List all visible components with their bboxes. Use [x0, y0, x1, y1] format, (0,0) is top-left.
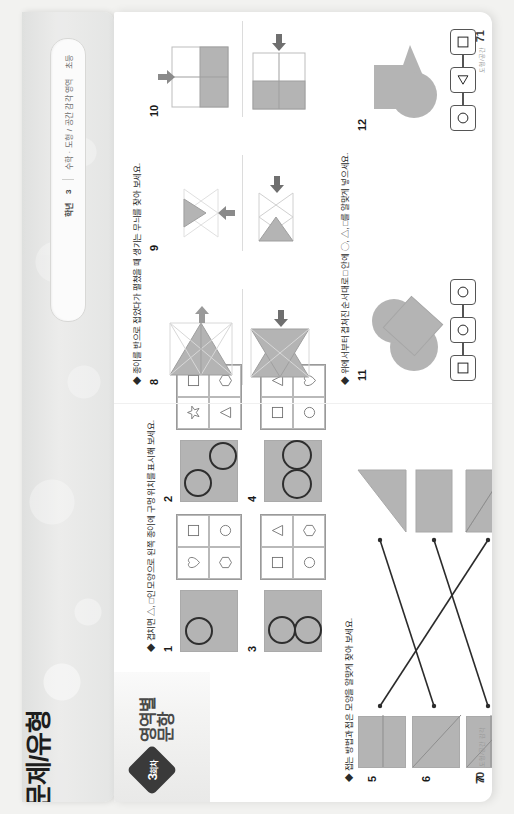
- hole-circle: [268, 616, 296, 644]
- problem-6: 6: [416, 776, 434, 782]
- problem-11-answer-boxes[interactable]: [450, 261, 476, 381]
- option-cell[interactable]: [293, 547, 325, 579]
- problem-3-number: 3: [246, 502, 258, 652]
- connector: [462, 343, 463, 355]
- problem-1-options[interactable]: [176, 514, 242, 580]
- problem-1: 1: [162, 502, 246, 652]
- problem-3: 3: [246, 502, 330, 652]
- problem-3-paper: [264, 590, 322, 652]
- hole-circle: [282, 440, 312, 470]
- fold-result-1: [358, 470, 406, 532]
- triangle-icon: [269, 523, 286, 540]
- square-icon: [185, 523, 202, 540]
- problem-11-figure: [370, 261, 448, 381]
- problem-6-paper: [412, 716, 460, 768]
- problem-6-number: 6: [420, 776, 432, 782]
- divider: [242, 155, 243, 251]
- footer-note-left: 도형/공간 감각: [477, 727, 486, 766]
- connector: [462, 93, 463, 105]
- problem-2-paper: [180, 440, 238, 502]
- option-cell[interactable]: [177, 515, 209, 547]
- book-cover: 문제/유형 학년 3 수학 · 도형 / 공간 감각 영역 초등: [22, 12, 114, 802]
- option-cell[interactable]: [261, 547, 293, 579]
- instruction-4: ◆ 위에서부터 겹쳐진 순서대로 □ 안에 ◯, △, □를 알맞게 넣으세요.: [338, 153, 350, 385]
- page-left: 3회차 영역별 문항 ◆ 겹치면 △, □인 모양으로 왼쪽 종이에 구멍 위치…: [114, 404, 492, 802]
- answer-box[interactable]: [450, 105, 476, 131]
- problem-4-paper: [264, 440, 322, 502]
- cover-label-grade-num: 3: [64, 189, 73, 194]
- cover-label-grade: 학년: [63, 203, 74, 217]
- cover-pill-divider: [62, 179, 74, 180]
- problem-12-answer-boxes[interactable]: [450, 12, 476, 131]
- rectangle-icon: [416, 470, 452, 532]
- connector: [462, 55, 463, 67]
- problem-11-number: 11: [356, 261, 368, 381]
- cover-title: 문제/유형: [22, 710, 55, 802]
- star-icon: [185, 405, 202, 422]
- problem-9-number: 9: [148, 155, 160, 251]
- instruction-3: ◆ 종이를 반으로 접었다가 펼쳤을 때 생기는 무늬를 찾아 보세요.: [130, 163, 142, 385]
- problem-3-options[interactable]: [260, 514, 326, 580]
- footer-note-right: 도형/공간: [477, 47, 486, 73]
- section-title-line1: 영역별: [140, 697, 158, 742]
- option-cell[interactable]: [261, 515, 293, 547]
- round-badge-text: 3회차: [144, 760, 159, 780]
- problem-9-figure: [162, 155, 240, 251]
- option-cell[interactable]: [209, 547, 241, 579]
- symmetry-problems: 8: [148, 21, 315, 385]
- circle-icon: [456, 323, 470, 337]
- answer-box[interactable]: [450, 355, 476, 381]
- cover-info-pill: 학년 3 수학 · 도형 / 공간 감각 영역 초등: [50, 38, 86, 322]
- problem-8: 8: [148, 289, 315, 385]
- square-icon: [456, 35, 470, 49]
- square-icon: [269, 405, 286, 422]
- circle-icon: [217, 523, 234, 540]
- screenshot-root: 문제/유형 학년 3 수학 · 도형 / 공간 감각 영역 초등 3회차 영역별…: [0, 0, 514, 814]
- cover-label-subject: 수학 · 도형 / 공간 감각 영역: [63, 78, 74, 170]
- answer-box[interactable]: [450, 29, 476, 55]
- arrow-left-icon: [271, 33, 287, 51]
- trapezoid-triangle-icon: [466, 470, 492, 532]
- hexagon-icon: [301, 523, 318, 540]
- triangle-icon: [456, 73, 470, 87]
- workbook: 문제/유형 학년 3 수학 · 도형 / 공간 감각 영역 초등 3회차 영역별…: [22, 12, 492, 802]
- arrow-up-icon: [218, 205, 236, 221]
- circle-icon: [301, 405, 318, 422]
- option-cell[interactable]: [293, 515, 325, 547]
- problem-12-figure: [370, 12, 448, 131]
- problem-8-figure: [162, 289, 240, 385]
- problem-5-paper: [358, 716, 406, 768]
- answer-box[interactable]: [450, 317, 476, 343]
- section-title: 영역별 문항: [140, 697, 176, 742]
- page-spread: 3회차 영역별 문항 ◆ 겹치면 △, □인 모양으로 왼쪽 종이에 구멍 위치…: [114, 12, 492, 802]
- hole-circle: [282, 469, 312, 499]
- answer-box[interactable]: [450, 279, 476, 305]
- problem-10-figure: [162, 21, 240, 117]
- problem-10-answer: [247, 21, 315, 117]
- star-triangles-icon: [162, 155, 240, 251]
- arrow-down-icon: [158, 69, 176, 85]
- page-right: ◆ 종이를 반으로 접었다가 펼쳤을 때 생기는 무늬를 찾아 보세요. 8: [114, 12, 492, 404]
- problem-5-number: 5: [366, 776, 378, 782]
- option-cell[interactable]: [177, 547, 209, 579]
- answer-box[interactable]: [450, 67, 476, 93]
- problem-12-number: 12: [356, 12, 368, 131]
- divider: [242, 289, 243, 385]
- problem-5: 5: [362, 776, 380, 782]
- instruction-1: ◆ 겹치면 △, □인 모양으로 왼쪽 종이에 구멍 위치를 표시해 보세요.: [144, 420, 156, 652]
- problem-12: 12: [356, 12, 476, 131]
- circle-icon: [456, 111, 470, 125]
- stacking-problems: 11: [356, 12, 476, 381]
- circle-icon: [301, 555, 318, 572]
- page-number-left: 70: [474, 772, 486, 784]
- problem-9-answer: [247, 155, 315, 251]
- problem-11: 11: [356, 261, 476, 381]
- problem-9: 9: [148, 155, 315, 251]
- fold-result-3: [466, 470, 492, 532]
- triangle-fan-icon: [162, 289, 240, 385]
- arrow-left-icon: [269, 175, 285, 193]
- problem-1-number: 1: [162, 502, 174, 652]
- option-cell[interactable]: [209, 515, 241, 547]
- circle-icon: [456, 285, 470, 299]
- hole-circle: [209, 442, 237, 470]
